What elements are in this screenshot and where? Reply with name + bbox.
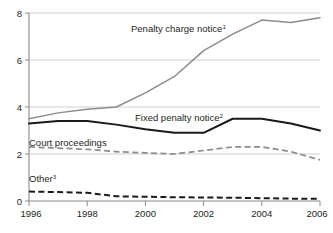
annotation-other: Other3	[29, 173, 57, 185]
y-tick-label-0: 0	[17, 196, 22, 207]
series-line-other	[29, 192, 320, 199]
annotation-court-proceedings: Court proceedings	[29, 137, 107, 148]
annotation-superscript: 2	[220, 112, 224, 119]
annotation-superscript: 3	[53, 173, 57, 180]
series-line-court-proceedings	[29, 147, 320, 160]
data-series-group	[29, 18, 320, 199]
x-tick-label-2002: 2002	[193, 208, 214, 219]
x-tick-label-2000: 2000	[135, 208, 156, 219]
line-chart: 8 6 4 2 0 1996 1998 2000 2002 2004 2006	[0, 0, 333, 233]
y-tick-label-4: 4	[17, 102, 22, 113]
y-tick-label-8: 8	[17, 8, 22, 19]
x-tick-label-2004: 2004	[251, 208, 272, 219]
series-annotations: Penalty charge notice1 Fixed penalty not…	[29, 23, 226, 185]
y-tick-label-2: 2	[17, 149, 22, 160]
annotation-fixed-penalty-notice: Fixed penalty notice2	[135, 112, 224, 124]
x-tick-label-1998: 1998	[77, 208, 98, 219]
annotation-penalty-charge-notice: Penalty charge notice1	[131, 23, 226, 35]
annotation-text: Penalty charge notice	[131, 23, 222, 34]
annotation-text: Court proceedings	[29, 137, 107, 148]
annotation-text: Fixed penalty notice	[135, 112, 220, 123]
y-tick-label-6: 6	[17, 55, 22, 66]
y-axis: 8 6 4 2 0	[17, 8, 29, 207]
x-tick-label-2006: 2006	[306, 208, 327, 219]
x-tick-label-1996: 1996	[20, 208, 41, 219]
chart-canvas: 8 6 4 2 0 1996 1998 2000 2002 2004 2006	[0, 0, 333, 233]
annotation-superscript: 1	[222, 23, 226, 30]
annotation-text: Other	[29, 173, 53, 184]
x-axis: 1996 1998 2000 2002 2004 2006	[20, 201, 327, 219]
